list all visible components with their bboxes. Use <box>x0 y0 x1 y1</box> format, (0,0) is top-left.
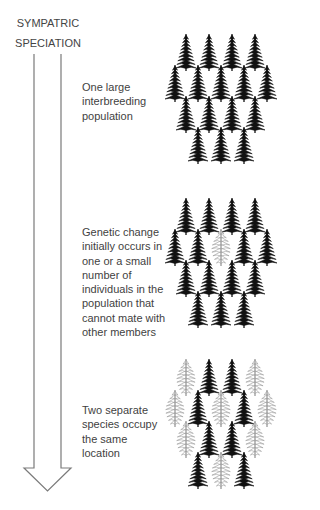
stage-2-description: Genetic changeinitially occurs inone or … <box>82 225 174 339</box>
dark-tree-icon <box>234 289 254 329</box>
light-tree-icon <box>211 450 231 490</box>
description-line: cannot mate with <box>82 311 174 325</box>
dark-tree-icon <box>234 125 254 165</box>
description-line: interbreeding <box>82 94 174 108</box>
stage-3-description: Two separatespecies occupythe samelocati… <box>82 403 174 460</box>
description-line: population <box>82 109 174 123</box>
description-line: the same <box>82 432 174 446</box>
description-line: species occupy <box>82 417 174 431</box>
description-line: number of <box>82 268 174 282</box>
description-line: population that <box>82 296 174 310</box>
dark-tree-icon <box>211 289 231 329</box>
description-line: other members <box>82 325 174 339</box>
description-line: Genetic change <box>82 225 174 239</box>
description-line: individuals in the <box>82 282 174 296</box>
description-line: initially occurs in <box>82 239 174 253</box>
description-line: one or a small <box>82 254 174 268</box>
description-line: location <box>82 446 174 460</box>
description-line: Two separate <box>82 403 174 417</box>
dark-tree-icon <box>188 289 208 329</box>
dark-tree-icon <box>234 450 254 490</box>
dark-tree-icon <box>211 125 231 165</box>
dark-tree-icon <box>188 450 208 490</box>
stage-1-description: One largeinterbreedingpopulation <box>82 80 174 123</box>
dark-tree-icon <box>188 125 208 165</box>
description-line: One large <box>82 80 174 94</box>
